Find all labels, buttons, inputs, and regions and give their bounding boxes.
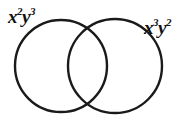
set-circle-left xyxy=(15,20,107,112)
label-right-base-x: x xyxy=(144,17,153,38)
set-label-left: x2y3 xyxy=(8,6,35,26)
label-left-base-y: y xyxy=(22,6,30,27)
label-left-base-x: x xyxy=(8,6,17,27)
label-right-base-y: y xyxy=(158,17,166,38)
label-left-exp-y: 3 xyxy=(30,5,35,17)
label-right-exp-y: 2 xyxy=(166,16,171,28)
set-label-right: x3y2 xyxy=(144,17,171,37)
